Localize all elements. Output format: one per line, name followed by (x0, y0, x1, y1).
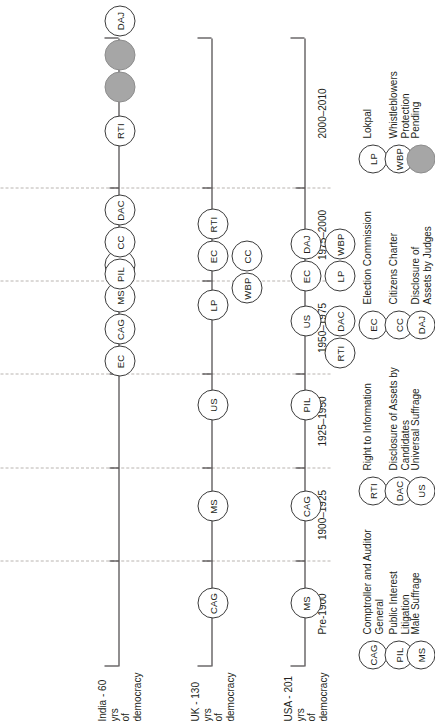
legend-item-cag: CAGComptroller and Auditor General (358, 509, 387, 669)
country-label-line1: India - 60 yrs (96, 669, 119, 721)
legend-item-rti: RTIRight to Information (358, 345, 387, 505)
country-label-line2: of democracy (119, 669, 142, 721)
legend-label: Election Commission (358, 211, 373, 304)
axis-tick-uk-2 (202, 373, 211, 374)
rotated-figure: Pre-19001900–19251925–19501950–19751975–… (0, 0, 435, 721)
axis-tick-usa-0 (295, 560, 304, 561)
legend-item-us: USUniversal Suffrage (406, 345, 435, 505)
axis-cap-uk-end (197, 37, 211, 38)
node-usa-ec[interactable]: EC (290, 261, 321, 292)
legend-item-ec: ECElection Commission (358, 179, 387, 339)
axis-cap-india-start (104, 665, 118, 666)
axis-tick-india-0 (109, 560, 118, 561)
country-label-usa: USA - 201 yrsof democracy (282, 669, 328, 721)
axis-tick-uk-4 (202, 187, 211, 188)
legend-item-lp: LPLokpal (358, 13, 387, 173)
country-label-line1: USA - 201 yrs (282, 669, 305, 721)
axis-tick-usa-4 (295, 187, 304, 188)
node-usa-dac[interactable]: DAC (324, 306, 355, 337)
node-usa-daj[interactable]: DAJ (290, 229, 321, 260)
legend-item-ms: MSMale Suffrage (406, 509, 435, 669)
legend-item-pending: Pending (406, 13, 435, 173)
node-usa-pil[interactable]: PIL (290, 389, 321, 420)
legend-label: Universal Suffrage (406, 388, 421, 470)
node-usa-rti[interactable]: RTI (324, 338, 355, 369)
node-india-lp[interactable]: LP (104, 39, 135, 70)
country-label-india: India - 60 yrsof democracy (96, 669, 142, 721)
legend-node-us: US (406, 476, 435, 505)
legend-label: Citizens Charter (384, 232, 399, 304)
period-label-p6: 2000–2010 (316, 88, 327, 138)
node-uk-cag[interactable]: CAG (197, 588, 228, 619)
legend-label: Male Suffrage (406, 572, 421, 634)
legend-label: Lokpal (358, 109, 373, 138)
legend-node-cag: CAG (358, 640, 387, 669)
axis-tick-uk-3 (202, 280, 211, 281)
node-india-cag[interactable]: CAG (104, 314, 135, 345)
legend-label: Comptroller and Auditor General (358, 529, 384, 634)
legend-item-daj: DAJDisclosure of Assets by Judges (406, 179, 435, 339)
node-uk-ec[interactable]: EC (197, 241, 228, 272)
legend-node-ec: EC (358, 310, 387, 339)
gridline-2 (0, 373, 330, 374)
axis-tick-india-1 (109, 467, 118, 468)
node-india-wbp[interactable]: WBP (104, 71, 135, 102)
axis-cap-uk-start (197, 665, 211, 666)
country-label-line1: UK - 130 yrs (189, 669, 212, 721)
node-india-daj[interactable]: DAJ (104, 5, 135, 36)
node-uk-ms[interactable]: MS (197, 491, 228, 522)
legend-node-daj: DAJ (406, 310, 435, 339)
node-uk-rti[interactable]: RTI (197, 209, 228, 240)
gridline-0 (0, 560, 330, 561)
node-usa-wbp[interactable]: WBP (324, 229, 355, 260)
axis-tick-uk-1 (202, 467, 211, 468)
node-india-dac[interactable]: DAC (104, 195, 135, 226)
axis-usa (304, 38, 305, 666)
country-label-line2: of democracy (305, 669, 328, 721)
node-usa-lp[interactable]: LP (324, 261, 355, 292)
axis-cap-usa-end (290, 37, 304, 38)
gridline-4 (0, 187, 330, 188)
axis-cap-india-end (104, 37, 118, 38)
country-label-uk: UK - 130 yrsof democracy (189, 669, 235, 721)
node-india-cc[interactable]: CC (104, 227, 135, 258)
legend-node-pending (406, 144, 435, 173)
axis-tick-uk-0 (202, 560, 211, 561)
node-india-pil[interactable]: PIL (104, 259, 135, 290)
node-usa-cag[interactable]: CAG (290, 491, 321, 522)
figure-canvas: Pre-19001900–19251925–19501950–19751975–… (0, 0, 435, 721)
node-uk-lp[interactable]: LP (197, 290, 228, 321)
gridline-3 (0, 280, 330, 281)
legend-node-lp: LP (358, 144, 387, 173)
axis-uk (211, 38, 212, 666)
legend-label: Disclosure of Assets by Judges (406, 226, 432, 304)
axis-tick-usa-1 (295, 467, 304, 468)
node-uk-wbp[interactable]: WBP (231, 273, 262, 304)
gridline-1 (0, 467, 330, 468)
legend-node-rti: RTI (358, 476, 387, 505)
axis-cap-usa-start (290, 665, 304, 666)
node-india-ec[interactable]: EC (104, 346, 135, 377)
axis-tick-usa-2 (295, 373, 304, 374)
legend-label: Right to Information (358, 383, 373, 470)
node-india-rti[interactable]: RTI (104, 115, 135, 146)
node-uk-cc[interactable]: CC (231, 241, 262, 272)
axis-tick-india-4 (109, 187, 118, 188)
legend-node-ms: MS (406, 640, 435, 669)
node-usa-us[interactable]: US (290, 306, 321, 337)
node-usa-ms[interactable]: MS (290, 588, 321, 619)
node-uk-us[interactable]: US (197, 389, 228, 420)
country-label-line2: of democracy (212, 669, 235, 721)
legend-label: Pending (406, 101, 421, 138)
